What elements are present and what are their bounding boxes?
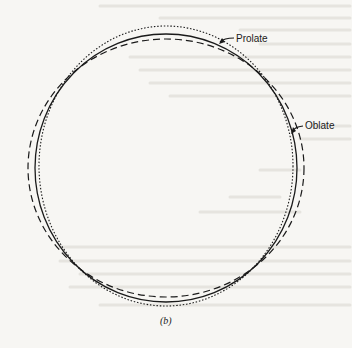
oblate-label: Oblate bbox=[305, 120, 334, 131]
figure-caption: (b) bbox=[160, 315, 172, 326]
prolate-label: Prolate bbox=[236, 33, 268, 44]
prolate-outline-dotted bbox=[39, 26, 293, 306]
sphere-outline-solid bbox=[35, 34, 297, 302]
spheroid-diagram bbox=[0, 0, 352, 348]
